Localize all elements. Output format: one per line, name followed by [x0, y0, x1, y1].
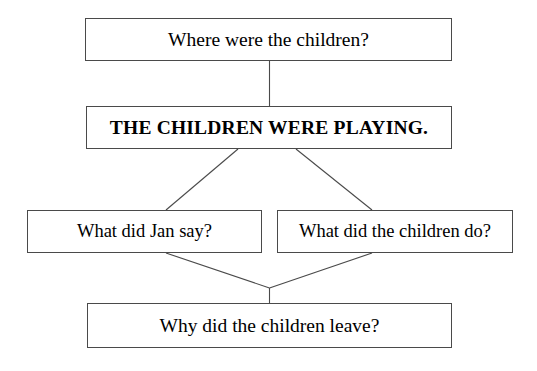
- node-statement-playing-label: THE CHILDREN WERE PLAYING.: [110, 117, 428, 138]
- connector-children-do-to-merge: [270, 253, 373, 288]
- node-question-location-label: Where were the children?: [168, 29, 369, 50]
- node-statement-playing[interactable]: THE CHILDREN WERE PLAYING.: [86, 106, 452, 149]
- node-question-location[interactable]: Where were the children?: [85, 18, 452, 61]
- connector-playing-to-jan-say: [166, 149, 238, 210]
- node-question-children-leave-label: Why did the children leave?: [160, 315, 380, 336]
- diagram-canvas: Where were the children? THE CHILDREN WE…: [0, 0, 537, 371]
- connector-jan-say-to-merge: [166, 253, 270, 288]
- node-question-children-leave[interactable]: Why did the children leave?: [87, 303, 452, 348]
- connector-playing-to-children-do: [296, 149, 372, 210]
- node-question-children-do-label: What did the children do?: [299, 221, 491, 241]
- node-question-children-do[interactable]: What did the children do?: [277, 210, 513, 253]
- node-question-jan-say[interactable]: What did Jan say?: [27, 210, 262, 253]
- node-question-jan-say-label: What did Jan say?: [77, 221, 212, 241]
